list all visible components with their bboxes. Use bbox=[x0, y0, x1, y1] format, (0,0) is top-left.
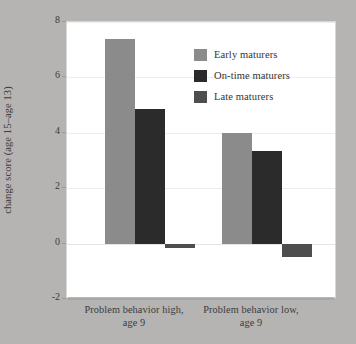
plot-area: Early maturersOn-time maturersLate matur… bbox=[66, 21, 336, 298]
gridline-8 bbox=[67, 22, 335, 23]
legend-swatch-icon bbox=[194, 70, 207, 82]
y-axis-title: Problem behavior change score (age 15–ag… bbox=[0, 50, 14, 250]
chart-figure: Problem behavior change score (age 15–ag… bbox=[0, 0, 356, 344]
y-tick-label-8: 8 bbox=[20, 14, 60, 25]
bar bbox=[282, 244, 312, 258]
axis-base-line bbox=[68, 297, 334, 300]
y-tick-label-4: 4 bbox=[20, 125, 60, 136]
legend: Early maturersOn-time maturersLate matur… bbox=[194, 44, 290, 107]
y-tick-label-6: 6 bbox=[20, 69, 60, 80]
legend-item: Late maturers bbox=[194, 86, 290, 107]
x-category-label-line-1: Problem behavior low, bbox=[181, 303, 321, 316]
legend-item: Early maturers bbox=[194, 44, 290, 65]
x-category-label: Problem behavior low,age 9 bbox=[181, 303, 321, 329]
legend-label: On-time maturers bbox=[214, 70, 290, 81]
y-tick-label-0: 0 bbox=[20, 236, 60, 247]
bar bbox=[135, 109, 165, 243]
bar bbox=[252, 151, 282, 244]
y-tick-label-2: 2 bbox=[20, 180, 60, 191]
legend-label: Late maturers bbox=[214, 91, 273, 102]
bar bbox=[165, 244, 195, 248]
legend-item: On-time maturers bbox=[194, 65, 290, 86]
y-tick-label--2: -2 bbox=[20, 291, 60, 302]
legend-swatch-icon bbox=[194, 91, 207, 103]
bar bbox=[222, 133, 252, 244]
y-tick-mark--2 bbox=[62, 298, 66, 299]
legend-label: Early maturers bbox=[214, 49, 278, 60]
y-axis-title-line-2: change score (age 15–age 13) bbox=[1, 50, 14, 250]
x-category-label-line-2: age 9 bbox=[181, 316, 321, 329]
legend-swatch-icon bbox=[194, 49, 207, 61]
bar bbox=[105, 39, 135, 244]
